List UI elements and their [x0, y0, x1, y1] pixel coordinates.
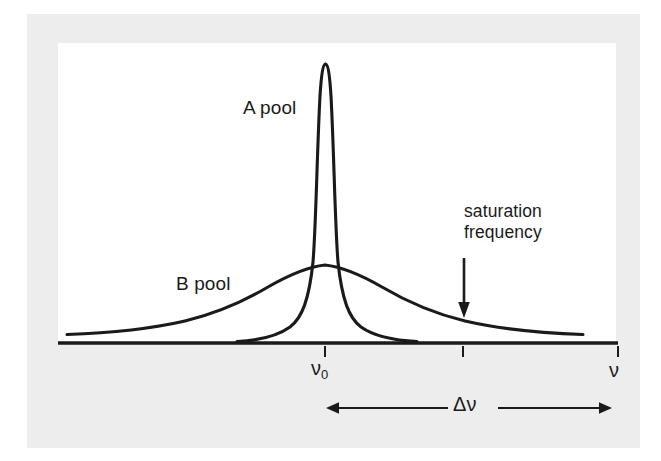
saturation-frequency-label-line1: saturation: [464, 201, 542, 222]
saturation-frequency-label-line2: frequency: [464, 222, 542, 243]
a-pool-label: A pool: [243, 96, 296, 119]
b-pool-label: B pool: [176, 272, 230, 295]
b-pool-curve: [67, 265, 583, 335]
delta-nu-left-arrow-head: [326, 402, 339, 413]
nu-axis-label: ν: [609, 358, 619, 382]
nu-zero-axis-label: ν0: [311, 356, 328, 383]
delta-nu-right-arrow-head: [599, 402, 612, 413]
nu-zero-symbol: ν: [311, 357, 321, 379]
diagram-canvas: [0, 0, 661, 461]
nu-zero-subscript: 0: [321, 367, 328, 382]
saturation-frequency-label: saturation frequency: [464, 201, 542, 244]
figure-root: A pool B pool saturation frequency ν0 ν …: [0, 0, 661, 461]
saturation-frequency-arrow-head: [458, 302, 470, 318]
delta-nu-label: Δν: [453, 392, 477, 416]
